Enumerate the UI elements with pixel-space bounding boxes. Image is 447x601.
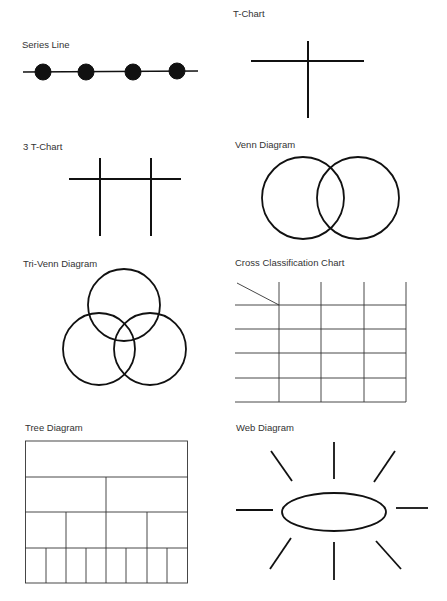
series-line-diagram [23, 63, 198, 80]
venn-diagram [262, 157, 399, 239]
diagram-canvas [0, 0, 447, 601]
t-chart-diagram [251, 41, 364, 118]
tri-venn-diagram [63, 269, 186, 385]
tree-diagram [25, 441, 188, 583]
web-diagram [236, 442, 428, 580]
three-t-chart-diagram [69, 158, 181, 236]
cross-classification-chart [235, 282, 406, 402]
